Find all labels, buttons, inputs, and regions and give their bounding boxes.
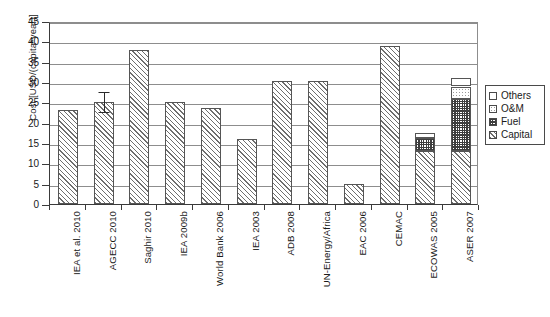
bar-segment-capital xyxy=(308,81,328,204)
legend-item-fuel: Fuel xyxy=(489,115,541,128)
y-axis-tick-label: 35 xyxy=(8,58,39,68)
x-axis-tick-label: World Bank 2006 xyxy=(214,211,225,317)
y-axis-tick xyxy=(42,22,49,23)
x-axis-tick-label: ECOWAS 2005 xyxy=(428,211,439,317)
gridline xyxy=(50,84,477,85)
y-axis-tick-label: 45 xyxy=(8,17,39,27)
bar-segment-capital xyxy=(344,184,364,204)
x-axis-tick xyxy=(121,205,122,210)
x-axis-tick-label: ADB 2008 xyxy=(285,211,296,317)
error-bar-cap-lower xyxy=(98,112,109,113)
x-axis-tick xyxy=(371,205,372,210)
x-axis-tick-label: IEA 2003 xyxy=(250,211,261,317)
gridline xyxy=(50,186,477,187)
bar xyxy=(272,81,292,204)
y-axis-tick-label: 0 xyxy=(8,200,39,210)
bar-segment-capital xyxy=(165,102,185,204)
y-axis-tick xyxy=(42,164,49,165)
y-axis-tick-label: 5 xyxy=(8,180,39,190)
y-axis-tick xyxy=(42,63,49,64)
gridline xyxy=(50,64,477,65)
bar-segment-capital xyxy=(380,46,400,204)
x-axis-tick xyxy=(335,205,336,210)
bar-segment-capital xyxy=(58,110,78,204)
y-axis-tick xyxy=(42,144,49,145)
bar-segment-fuel xyxy=(415,138,435,151)
x-axis-tick xyxy=(156,205,157,210)
x-axis-tick-label: EAC 2006 xyxy=(357,211,368,317)
x-axis-tick xyxy=(264,205,265,210)
gridline xyxy=(50,145,477,146)
y-axis-tick xyxy=(42,103,49,104)
legend-swatch-icon xyxy=(489,118,497,126)
y-axis-tick-label: 15 xyxy=(8,139,39,149)
gridline xyxy=(50,125,477,126)
bar-segment-o-m xyxy=(451,87,471,100)
bar-segment-capital xyxy=(237,139,257,204)
bar xyxy=(451,78,471,204)
bar-segment-capital xyxy=(129,50,149,204)
bar-segment-capital xyxy=(451,151,471,204)
error-bar-cap-upper xyxy=(98,92,109,93)
y-axis-tick xyxy=(42,124,49,125)
bar-segment-capital xyxy=(415,151,435,204)
bar xyxy=(165,102,185,204)
x-axis-tick xyxy=(192,205,193,210)
error-bar-stem xyxy=(104,92,105,113)
y-axis-tick xyxy=(42,205,49,206)
x-axis-tick xyxy=(85,205,86,210)
legend-item-o-m: O&M xyxy=(489,102,541,115)
bar xyxy=(308,81,328,204)
x-axis-tick xyxy=(478,205,479,210)
gridline xyxy=(50,43,477,44)
x-axis-tick xyxy=(407,205,408,210)
bar xyxy=(58,110,78,204)
error-bar xyxy=(94,92,114,113)
y-axis-tick-label: 10 xyxy=(8,159,39,169)
y-axis-tick-label: 20 xyxy=(8,119,39,129)
legend-label: O&M xyxy=(501,104,524,114)
legend-swatch-icon xyxy=(489,131,497,139)
bar xyxy=(344,184,364,204)
gridline xyxy=(50,165,477,166)
x-axis-tick xyxy=(299,205,300,210)
x-axis-tick-label: AGECC 2010 xyxy=(107,211,118,317)
bar xyxy=(129,50,149,204)
x-axis-tick-label: CEMAC xyxy=(393,211,404,317)
y-axis-tick-label: 25 xyxy=(8,98,39,108)
plot-area xyxy=(49,22,478,205)
y-axis-tick-label: 30 xyxy=(8,78,39,88)
legend-item-others: Others xyxy=(489,89,541,102)
bar-segment-others xyxy=(415,133,435,138)
bar xyxy=(201,108,221,204)
legend: OthersO&MFuelCapital xyxy=(485,85,545,145)
bar-segment-others xyxy=(451,78,471,87)
y-axis-tick xyxy=(42,83,49,84)
bar xyxy=(94,102,114,204)
gridline xyxy=(50,23,477,24)
bar-segment-capital xyxy=(201,108,221,204)
x-axis-tick-label: ASER 2007 xyxy=(464,211,475,317)
bar-segment-capital xyxy=(272,81,292,204)
x-axis-tick-label: UN-Energy/Africa xyxy=(321,211,332,317)
legend-label: Others xyxy=(501,91,531,101)
bar xyxy=(237,139,257,204)
y-axis-tick xyxy=(42,42,49,43)
bar xyxy=(415,133,435,204)
x-axis-tick xyxy=(49,205,50,210)
bar xyxy=(380,46,400,204)
x-axis-tick xyxy=(442,205,443,210)
legend-swatch-icon xyxy=(489,105,497,113)
x-axis-tick-label: IEA 2009b xyxy=(178,211,189,317)
x-axis-tick-label: IEA et al. 2010 xyxy=(71,211,82,317)
bar-segment-fuel xyxy=(451,99,471,151)
bar-segment-capital xyxy=(94,102,114,204)
x-axis-tick xyxy=(228,205,229,210)
y-axis-tick-label: 40 xyxy=(8,37,39,47)
bar-chart-figure: Cost [USD/(capita*year)] 051015202530354… xyxy=(0,0,550,317)
legend-item-capital: Capital xyxy=(489,128,541,141)
legend-label: Fuel xyxy=(501,117,520,127)
legend-swatch-icon xyxy=(489,92,497,100)
x-axis-tick-label: Saghir 2010 xyxy=(142,211,153,317)
gridline xyxy=(50,104,477,105)
